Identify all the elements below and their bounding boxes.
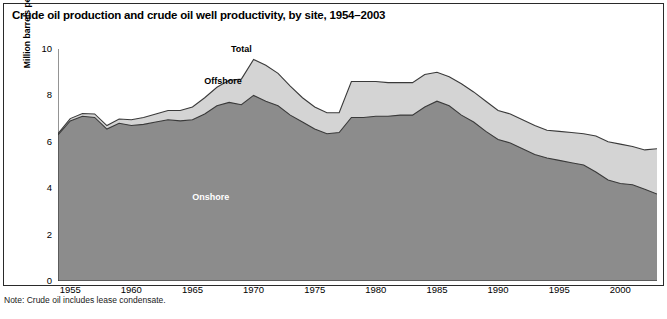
x-tick-label: 1990 <box>488 285 509 295</box>
y-tick-label: 6 <box>47 137 52 147</box>
x-tick-label: 1965 <box>182 285 203 295</box>
y-tick-label: 0 <box>47 276 52 286</box>
x-tick-label: 1970 <box>243 285 264 295</box>
x-tick-label: 1955 <box>60 285 81 295</box>
chart-layers <box>58 49 657 281</box>
x-tick-label: 2000 <box>610 285 631 295</box>
y-tick-label: 8 <box>47 91 52 101</box>
area-chart-svg <box>58 49 657 281</box>
series-label-total: Total <box>231 44 252 54</box>
plot-area: Million barrels per day (cumulative) 024… <box>58 49 657 281</box>
x-tick-label: 1975 <box>304 285 325 295</box>
y-axis-label: Million barrels per day (cumulative) <box>22 0 32 91</box>
x-tick-label: 1980 <box>365 285 386 295</box>
series-label-offshore: Offshore <box>204 76 242 86</box>
x-tick-label: 1960 <box>121 285 142 295</box>
y-tick-label: 2 <box>47 230 52 240</box>
y-tick-label: 4 <box>47 183 52 193</box>
y-tick-label: 10 <box>41 44 52 54</box>
chart-page: Crude oil production and crude oil well … <box>0 0 667 319</box>
series-label-onshore: Onshore <box>192 192 229 202</box>
chart-note: Note: Crude oil includes lease condensat… <box>4 295 166 305</box>
x-tick-label: 1995 <box>549 285 570 295</box>
chart-title: Crude oil production and crude oil well … <box>12 9 385 21</box>
x-tick-label: 1985 <box>426 285 447 295</box>
